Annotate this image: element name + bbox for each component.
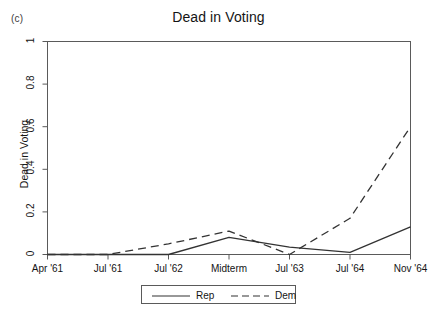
axes-frame xyxy=(48,42,411,255)
chart-figure: (c) Dead in Voting Dead in Voting 00.20.… xyxy=(0,0,437,319)
legend-swatch-rep xyxy=(151,291,191,301)
legend: Rep Dem xyxy=(141,285,296,304)
plot-area xyxy=(0,0,437,319)
legend-item-rep: Rep xyxy=(151,286,214,305)
legend-label-rep: Rep xyxy=(196,290,214,301)
axis-ticks xyxy=(43,42,411,260)
legend-swatch-dem xyxy=(230,291,270,301)
legend-item-dem: Dem xyxy=(230,286,296,305)
data-series xyxy=(48,127,411,255)
series-line-dem xyxy=(48,127,411,255)
legend-label-dem: Dem xyxy=(275,290,296,301)
